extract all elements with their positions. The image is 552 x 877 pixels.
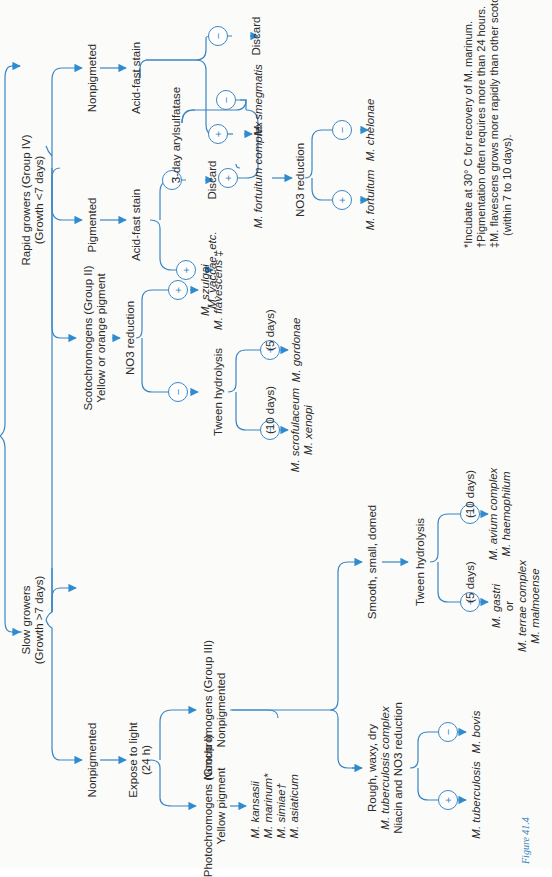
tuberculosis-label: M. tuberculosis — [470, 761, 483, 838]
rough-waxy-label: Rough, waxy, dryM. tuberculosis complexN… — [366, 702, 405, 834]
expose-light-label: Expose to light(24 h) — [127, 722, 153, 797]
minus-node: − — [216, 90, 236, 110]
plus-node: + — [218, 168, 238, 188]
plus-node: + — [332, 190, 352, 210]
fortuitum-complex-label: M. fortuitum complex — [252, 122, 265, 229]
scotochromogens-label: Scotochromogens (Group II)Yellow or oran… — [82, 265, 108, 410]
minus-node: − — [438, 722, 458, 742]
no3-reduction-scoto-label: NO3 reduction — [124, 301, 137, 375]
tween1-neg-days: (10 days) — [264, 386, 277, 434]
bovis-label: M. bovis — [470, 711, 483, 754]
no3-reduction-rapid-label: NO3 reduction — [294, 143, 307, 217]
plus-node: + — [438, 790, 458, 810]
nonpigmented-slow-label: Nonpigmented — [86, 723, 99, 798]
footnotes: *Incubate at 30° C for recovery of M. ma… — [462, 0, 514, 248]
acid-fast-left-label: Acid-fast stain — [130, 189, 143, 261]
nonchromogens-label: Nonchromogens (Group III)Nonpigmented — [202, 640, 228, 780]
smooth-small-label: Smooth, small, domed — [366, 505, 379, 619]
minus-node: − — [332, 120, 352, 140]
minus-node: − — [168, 382, 188, 402]
pigmented-label: Pigmented — [86, 198, 99, 253]
minus-node: − — [208, 26, 228, 46]
plus-node: + — [176, 260, 196, 280]
plus-node: + — [168, 280, 188, 300]
plus-node: + — [208, 124, 228, 144]
gordonae-label: M. gordonae — [290, 318, 303, 383]
photochromogen-species: M. kansasii M. marinum* M. simiae† M. as… — [249, 773, 301, 838]
acid-fast-right-label: Acid-fast stain — [130, 42, 143, 114]
tween-hydrolysis-2-label: Tween hydrolysis — [414, 518, 427, 606]
figure-caption: Figure 41.4 — [520, 817, 531, 864]
tween1-pos-days: (5 days) — [264, 309, 277, 351]
discard-left-label: Discard — [206, 161, 219, 200]
slow-growers-label: Slow growers(Growth >7 days) — [20, 576, 46, 665]
tween2-neg-days: (10 days) — [464, 470, 477, 518]
arylsulfatase-label: 3-day arylsulfatase — [170, 87, 183, 184]
rapid-growers-label: Rapid growers (Group IV)(Growth <7 days) — [20, 134, 46, 265]
discard-right-label: Discard — [250, 17, 263, 56]
nonpigmented-rapid-label: Nonpigmeted — [86, 44, 99, 112]
gastri-terrae-label: M. gastriorM. terrae complexM. malmoense — [490, 560, 542, 652]
chelonae-label: M. chelonae — [364, 99, 377, 162]
fortuitum-label: M. fortuitum — [364, 170, 377, 231]
avium-haemophilum-label: M. avium complexM. haemophilum — [487, 468, 513, 561]
szulgai-flavescens-label: M. szulgaiM. flavescens ‡ — [199, 250, 225, 330]
tween2-pos-days: (5 days) — [464, 561, 477, 603]
tween-hydrolysis-1-label: Tween hydrolysis — [212, 348, 225, 436]
scrofulaceum-xenopi-label: M. scrofulaceumM. xenopi — [289, 388, 315, 472]
